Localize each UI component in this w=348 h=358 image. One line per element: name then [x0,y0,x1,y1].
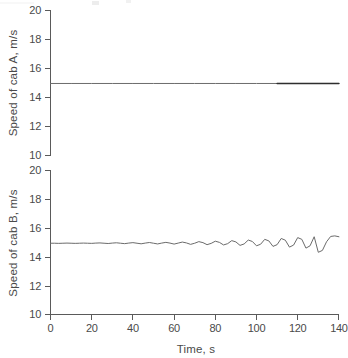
cab-a-y-tick-labels: 20 18 16 14 12 10 [29,4,41,161]
scan-artifact-top [0,0,131,5]
cab-a-ytick-14: 14 [29,91,41,103]
cab-a-y-ticks [45,11,51,156]
cab-b-ytick-18: 18 [29,193,41,205]
cab-b-xtick-80: 80 [209,322,221,334]
cab-b-y-tick-labels: 20 18 16 14 12 10 [29,164,41,320]
cab-b-xtick-140: 140 [330,322,348,334]
cab-b-xtick-120: 120 [289,322,307,334]
cab-a-ytick-12: 12 [29,120,41,132]
cab-b-ytick-16: 16 [29,222,41,234]
cab-b-ytick-20: 20 [29,164,41,176]
cab-a-y-axis-title: Speed of cab A, m/s [7,30,19,137]
cab-b-ytick-12: 12 [29,280,41,292]
cab-b-xtick-60: 60 [168,322,180,334]
cab-a-ytick-18: 18 [29,33,41,45]
figure-container: 20 18 16 14 12 10 Speed of cab A, m/s [0,0,348,358]
cab-b-ytick-14: 14 [29,251,41,263]
cab-b-xtick-40: 40 [127,322,139,334]
cab-b-xtick-20: 20 [86,322,98,334]
panel-cab-a: 20 18 16 14 12 10 Speed of cab A, m/s [7,4,339,161]
cab-b-xtick-100: 100 [248,322,266,334]
panel-cab-b: 20 18 16 14 12 10 0 20 [7,164,348,355]
cab-a-ytick-20: 20 [29,4,41,16]
cab-b-y-axis-title: Speed of cab B, m/s [7,189,19,296]
cab-b-y-ticks [45,171,51,315]
cab-b-x-axis-title: Time, s [177,343,216,355]
cab-a-ytick-16: 16 [29,62,41,74]
cab-b-x-ticks [51,315,339,321]
cab-b-data-line [51,236,339,252]
cab-a-ytick-10: 10 [29,149,41,161]
cab-b-xtick-0: 0 [48,322,54,334]
two-panel-speed-chart: 20 18 16 14 12 10 Speed of cab A, m/s [0,0,348,358]
cab-b-ytick-10: 10 [29,308,41,320]
cab-b-x-tick-labels: 0 20 40 60 80 100 120 140 [48,322,348,334]
